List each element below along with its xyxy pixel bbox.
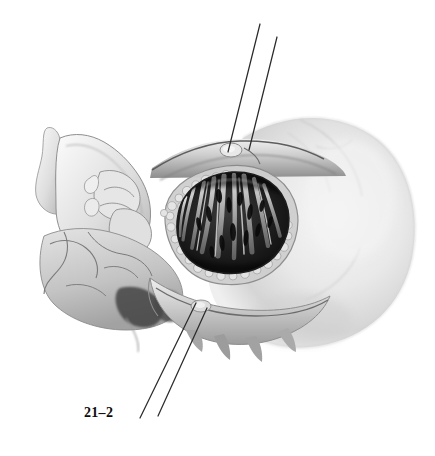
medical-illustration xyxy=(0,0,435,456)
figure-number-label: 21–2 xyxy=(84,405,113,421)
figure-container: 21–2 xyxy=(0,0,435,456)
